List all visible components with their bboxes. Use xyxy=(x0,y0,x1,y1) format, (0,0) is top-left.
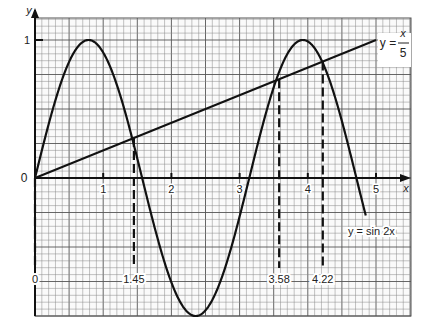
x-axis-label: x xyxy=(402,182,409,194)
intersection-label: 4.22 xyxy=(312,273,333,285)
intersection-label: 0 xyxy=(32,273,38,285)
line-label-denominator: 5 xyxy=(400,46,407,60)
y-tick-label-1: 1 xyxy=(24,34,30,46)
intersection-label: 3.58 xyxy=(268,273,289,285)
x-tick-label: 5 xyxy=(373,183,379,195)
chart-svg: 12345xy1001.453.584.22y =x5y = sin 2x xyxy=(0,0,427,333)
x-tick-label: 3 xyxy=(237,183,243,195)
x-tick-label: 4 xyxy=(305,183,311,195)
intersection-label: 1.45 xyxy=(123,273,144,285)
line-label-lhs: y = xyxy=(380,36,396,50)
y-axis-arrow-icon xyxy=(31,8,39,18)
line-label-numerator: x xyxy=(399,27,406,39)
origin-label: 0 xyxy=(21,171,28,185)
x-tick-label: 2 xyxy=(168,183,174,195)
y-axis-label: y xyxy=(25,4,33,16)
x-tick-label: 1 xyxy=(100,183,106,195)
curve-label: y = sin 2x xyxy=(348,225,395,237)
